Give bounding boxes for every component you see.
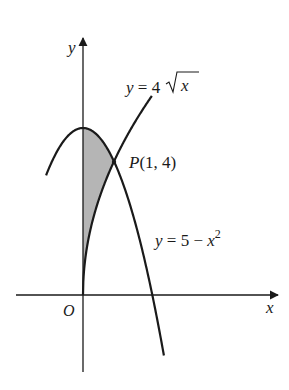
parabola-label: y = 5 − x2: [153, 227, 221, 250]
y-axis-label: y: [66, 38, 76, 57]
x-axis-label: x: [265, 298, 274, 317]
point-label: P(1, 4): [128, 153, 176, 172]
sqrt-curve-label: y = 4 x: [124, 72, 199, 97]
svg-text:y = 4: y = 4: [124, 78, 161, 97]
svg-text:x: x: [180, 76, 189, 95]
graph-diagram: y x O P(1, 4) y = 4 x y = 5 − x2: [0, 0, 289, 390]
svg-text:y = 5 − x2: y = 5 − x2: [153, 227, 221, 250]
intersection-point: [112, 160, 116, 164]
origin-label: O: [63, 302, 75, 319]
